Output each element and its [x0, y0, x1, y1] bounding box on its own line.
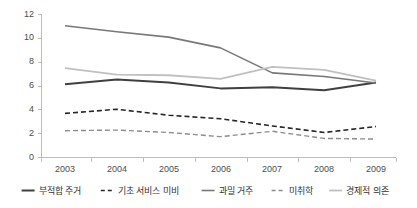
y-tick-label-10: 10	[24, 32, 34, 42]
x-tick-label-2004: 2004	[107, 164, 127, 174]
y-tick-label-8: 8	[29, 56, 34, 66]
x-tick-label-2005: 2005	[159, 164, 179, 174]
chart-canvas: 12 10 8 6 4 2 0 2003 2004 2005	[0, 0, 417, 208]
legend-label-0: 부적합 주거	[39, 185, 82, 196]
line-chart: 12 10 8 6 4 2 0 2003 2004 2005	[0, 0, 417, 208]
chart-legend: 부적합 주거기초 서비스 미비과밀 거주미취학경제적 의존	[22, 185, 389, 196]
y-axis-ticks	[38, 15, 42, 158]
y-axis-tick-labels: 12 10 8 6 4 2 0	[24, 9, 34, 162]
series-group	[65, 26, 376, 139]
x-tick-label-2003: 2003	[55, 164, 75, 174]
x-axis-ticks	[42, 158, 397, 162]
series-line-1	[65, 109, 376, 132]
legend-label-1: 기초 서비스 미비	[118, 186, 179, 196]
x-tick-label-2008: 2008	[314, 164, 334, 174]
x-axis-tick-labels: 2003 2004 2005 2006 2007 2008 2009	[55, 164, 386, 174]
x-tick-label-2009: 2009	[366, 164, 386, 174]
series-line-4	[65, 67, 376, 81]
y-tick-label-6: 6	[29, 80, 34, 90]
legend-label-4: 경제적 의존	[346, 185, 389, 196]
y-tick-label-0: 0	[29, 152, 34, 162]
series-line-0	[65, 79, 376, 90]
legend-label-3: 미취학	[289, 186, 313, 196]
legend-label-2: 과밀 거주	[219, 185, 254, 196]
x-tick-label-2007: 2007	[262, 164, 282, 174]
y-tick-label-4: 4	[29, 104, 34, 114]
y-tick-label-2: 2	[29, 128, 34, 138]
x-tick-label-2006: 2006	[211, 164, 231, 174]
y-tick-label-12: 12	[24, 9, 34, 19]
